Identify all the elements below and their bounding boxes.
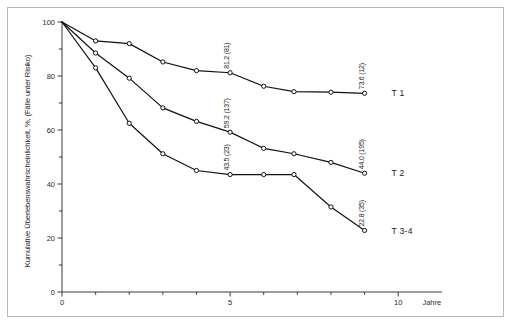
series-line: [62, 22, 365, 93]
data-point-marker: [194, 69, 198, 73]
series-label-t-1: T 1: [392, 88, 405, 98]
y-axis-tick-label: 0: [51, 288, 55, 297]
data-point-marker: [292, 172, 296, 176]
y-axis-tick-label: 40: [47, 180, 55, 189]
data-point-marker: [161, 152, 165, 156]
data-point-annotation: 44.0 (195): [358, 139, 366, 169]
data-point-marker: [362, 171, 366, 175]
x-axis-tick-label: 10: [394, 298, 402, 307]
data-point-marker: [262, 146, 266, 150]
data-point-marker: [292, 152, 296, 156]
data-point-marker: [329, 90, 333, 94]
y-axis-title: Kumulative Überlebenswahrscheinlichkeit,…: [23, 54, 32, 267]
y-axis-tick-label: 20: [47, 234, 55, 243]
data-point-marker: [228, 71, 232, 75]
data-point-marker: [228, 130, 232, 134]
y-axis-tick-label: 60: [47, 126, 55, 135]
data-point-marker: [127, 76, 131, 80]
data-point-marker: [262, 172, 266, 176]
data-point-marker: [329, 160, 333, 164]
data-point-annotation: 22.8 (35): [358, 200, 366, 226]
y-axis-tick-label: 80: [47, 72, 55, 81]
data-point-marker: [362, 228, 366, 232]
data-point-marker: [161, 106, 165, 110]
data-point-marker: [94, 66, 98, 70]
axes: 0204060801000510: [42, 18, 441, 307]
data-point-marker: [194, 168, 198, 172]
data-point-marker: [94, 51, 98, 55]
data-point-marker: [228, 172, 232, 176]
data-point-annotation: 43.5 (23): [223, 144, 231, 170]
data-point-annotation: 73.6 (12): [358, 63, 366, 89]
data-point-annotation: 81.2 (81): [223, 43, 231, 69]
data-point-marker: [329, 205, 333, 209]
x-axis-tick-label: 0: [60, 298, 64, 307]
data-point-marker: [127, 42, 131, 46]
x-axis-title: Jahre: [422, 298, 441, 307]
data-point-marker: [362, 91, 366, 95]
series-label-t-3-4: T 3-4: [392, 226, 413, 236]
data-point-marker: [194, 119, 198, 123]
data-point-marker: [94, 39, 98, 43]
survival-curve-figure: 0204060801000510 JahreKumulative Überleb…: [0, 0, 518, 332]
data-point-marker: [292, 90, 296, 94]
series-line: [62, 22, 365, 173]
data-point-marker: [127, 121, 131, 125]
y-axis-tick-label: 100: [42, 18, 55, 27]
data-series: [62, 22, 367, 233]
data-point-marker: [161, 60, 165, 64]
data-point-marker: [262, 84, 266, 88]
series-label-t-2: T 2: [392, 168, 405, 178]
data-point-annotation: 59.2 (137): [223, 98, 231, 128]
chart-canvas: 0204060801000510 JahreKumulative Überleb…: [0, 0, 518, 332]
x-axis-tick-label: 5: [228, 298, 232, 307]
